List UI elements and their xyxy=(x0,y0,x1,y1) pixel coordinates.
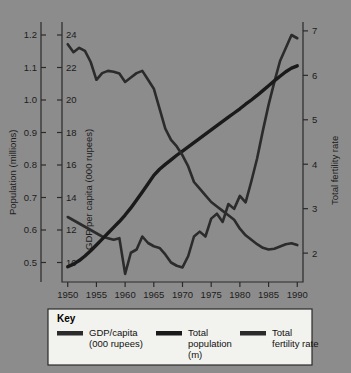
legend-title: Key xyxy=(57,313,76,324)
tick-label-population: 1.0 xyxy=(24,94,37,105)
tick-label-gdp: 14 xyxy=(66,192,77,203)
tick-label-fertility: 7 xyxy=(312,25,317,36)
tick-label-fertility: 6 xyxy=(312,70,317,81)
axis-title-fertility: Total fertility rate xyxy=(329,136,340,205)
legend-swatch-total-population xyxy=(156,331,182,336)
tick-label-population: 0.7 xyxy=(24,192,37,203)
legend-label-total-population-line3: (m) xyxy=(188,349,202,360)
tick-label-fertility: 3 xyxy=(312,203,317,214)
tick-label-gdp: 16 xyxy=(66,159,77,170)
tick-label-gdp: 24 xyxy=(66,29,77,40)
tick-label-year: 1955 xyxy=(86,289,107,300)
legend-swatch-gdp-per-capita xyxy=(57,331,83,336)
legend-label-total-population-line2: population xyxy=(188,338,232,349)
legend-swatch-total-fertility-rate xyxy=(240,331,266,336)
tick-label-fertility: 2 xyxy=(312,248,317,259)
tick-label-gdp: 12 xyxy=(66,224,77,235)
tick-label-gdp: 22 xyxy=(66,62,77,73)
axis-title-population: Population (millions) xyxy=(7,129,18,215)
legend-label-gdp-per-capita-line2: (000 rupees) xyxy=(89,338,143,349)
tick-label-fertility: 4 xyxy=(312,159,317,170)
tick-label-population: 1.2 xyxy=(24,29,37,40)
tick-label-gdp: 20 xyxy=(66,94,77,105)
legend-label-total-fertility-rate-line1: Total xyxy=(272,327,292,338)
tick-label-year: 1960 xyxy=(115,289,136,300)
tick-label-year: 1975 xyxy=(201,289,222,300)
tick-label-year: 1950 xyxy=(57,289,78,300)
tick-label-year: 1985 xyxy=(258,289,279,300)
tick-label-fertility: 5 xyxy=(312,114,317,125)
tick-label-population: 0.5 xyxy=(24,257,37,268)
legend-label-total-population-line1: Total xyxy=(188,327,208,338)
chart-legend: Key GDP/capita (000 rupees) Total popula… xyxy=(48,309,318,365)
tick-label-population: 0.8 xyxy=(24,159,37,170)
tick-label-year: 1980 xyxy=(229,289,250,300)
legend-label-gdp-per-capita-line1: GDP/capita xyxy=(89,327,138,338)
tick-label-population: 0.6 xyxy=(24,224,37,235)
tick-label-year: 1990 xyxy=(287,289,308,300)
chart-figure: 0.50.60.70.80.91.01.11.2 101214161820222… xyxy=(0,0,351,373)
tick-label-population: 1.1 xyxy=(24,62,37,73)
tick-label-population: 0.9 xyxy=(24,127,37,138)
tick-label-year: 1970 xyxy=(172,289,193,300)
chart-canvas: 0.50.60.70.80.91.01.11.2 101214161820222… xyxy=(0,0,351,373)
legend-label-total-fertility-rate-line2: fertility rate xyxy=(272,338,318,349)
tick-label-year: 1965 xyxy=(143,289,164,300)
tick-label-gdp: 18 xyxy=(66,127,77,138)
